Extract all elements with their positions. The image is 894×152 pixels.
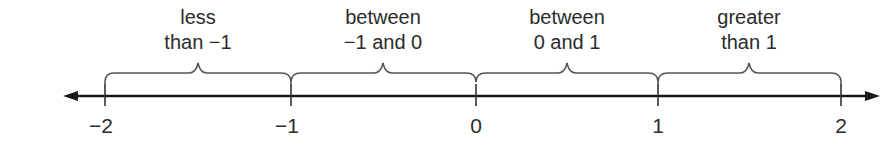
right-arrow-icon [865, 91, 880, 101]
interval-braces [105, 63, 841, 88]
tick-label-1: 1 [652, 114, 664, 138]
interval-label-less-than-neg1: less than −1 [164, 5, 231, 55]
brace-less-than-neg1 [105, 63, 291, 88]
tick-label-neg2: −2 [89, 114, 113, 138]
brace-between-0-1 [476, 63, 658, 82]
interval-label-between-neg1-0: between −1 and 0 [344, 5, 422, 55]
brace-greater-than-1 [658, 63, 841, 88]
tick-label-neg1: −1 [275, 114, 299, 138]
tick-label-0: 0 [470, 114, 482, 138]
interval-label-between-0-1: between 0 and 1 [529, 5, 605, 55]
tick-label-2: 2 [835, 114, 847, 138]
brace-between-neg1-0 [291, 63, 476, 82]
interval-label-greater-than-1: greater than 1 [717, 5, 780, 55]
left-arrow-icon [63, 91, 78, 101]
